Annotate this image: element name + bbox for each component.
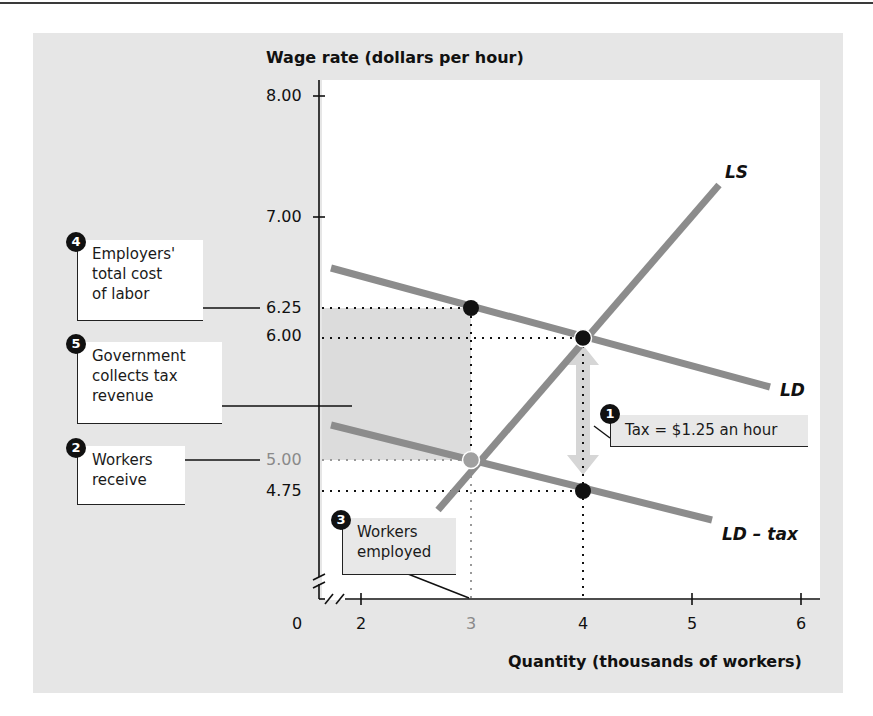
badge-2: 2 <box>66 438 86 458</box>
callout-text: receive <box>92 470 177 490</box>
callout-employers-cost: Employers' total cost of labor <box>77 240 203 321</box>
callout-text: of labor <box>92 284 195 304</box>
y-tick-6-25: 6.25 <box>266 298 302 317</box>
ld-label: LD <box>780 380 805 400</box>
callout-tax-amount: Tax = $1.25 an hour <box>610 415 808 447</box>
point-employer-cost <box>463 300 479 316</box>
callout-text: Tax = $1.25 an hour <box>625 420 800 440</box>
tax-revenue-area <box>322 308 471 460</box>
x-tick-2: 2 <box>356 614 366 633</box>
callout-text: collects tax <box>92 366 214 386</box>
callout-text: Workers <box>357 522 448 542</box>
point-workers-receive <box>463 452 480 469</box>
callout-workers-receive: Workers receive <box>77 446 185 505</box>
x-tick-6: 6 <box>796 614 806 633</box>
callout-text: total cost <box>92 264 195 284</box>
callout-workers-employed: Workers employed <box>342 518 456 575</box>
callout-text: Workers <box>92 450 177 470</box>
badge-3: 3 <box>331 510 351 530</box>
badge-5: 5 <box>66 334 86 354</box>
ld-tax-label: LD – tax <box>722 524 798 544</box>
badge-4: 4 <box>66 232 86 252</box>
x-tick-0: 0 <box>292 614 302 633</box>
y-tick-8: 8.00 <box>266 86 302 105</box>
x-tick-3: 3 <box>466 614 476 633</box>
y-tick-4-75: 4.75 <box>266 481 302 500</box>
point-ld-tax <box>575 483 591 499</box>
ls-label: LS <box>725 162 748 182</box>
x-tick-4: 4 <box>578 614 588 633</box>
callout-text: revenue <box>92 386 214 406</box>
point-equilibrium <box>575 330 592 347</box>
callout-text: Employers' <box>92 244 195 264</box>
callout-government-revenue: Government collects tax revenue <box>77 342 222 424</box>
y-tick-5: 5.00 <box>266 450 302 469</box>
x-axis-title: Quantity (thousands of workers) <box>508 652 802 671</box>
y-tick-6: 6.00 <box>266 326 302 345</box>
x-tick-5: 5 <box>687 614 697 633</box>
y-axis-title: Wage rate (dollars per hour) <box>266 48 524 67</box>
y-tick-7: 7.00 <box>266 207 302 226</box>
callout-text: employed <box>357 542 448 562</box>
callout-text: Government <box>92 346 214 366</box>
badge-1: 1 <box>600 404 620 424</box>
